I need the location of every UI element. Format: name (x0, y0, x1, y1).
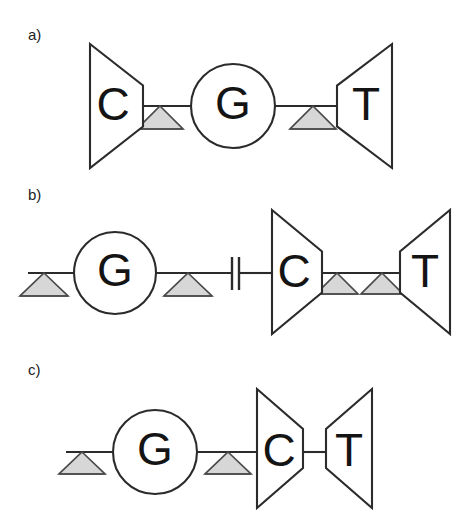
panel-label-a: a) (28, 26, 41, 43)
node-letter-a-gene-g: G (215, 77, 251, 129)
node-letter-a-gene-c: C (96, 78, 129, 130)
node-letter-c-gene-g: G (137, 423, 173, 475)
node-letter-c-gene-c: C (262, 424, 295, 476)
node-letter-b-gene-t: T (411, 245, 439, 297)
node-letter-c-gene-t: T (335, 424, 363, 476)
panel-label-b: b) (28, 186, 41, 203)
node-letter-b-gene-c: C (277, 245, 310, 297)
panel-label-c: c) (28, 361, 41, 378)
node-letter-a-gene-t: T (352, 78, 380, 130)
node-letter-b-gene-g: G (97, 244, 133, 296)
gene-arrangement-figure: a)CGTb)GCTc)GCT (0, 0, 463, 524)
